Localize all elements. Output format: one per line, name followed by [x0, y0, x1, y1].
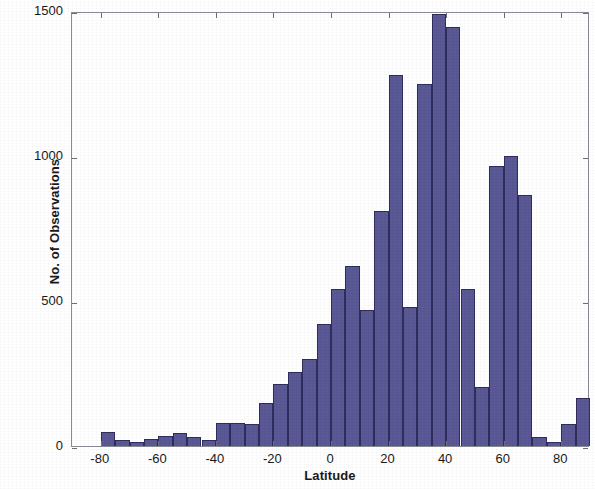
- x-tick-mark-top: [101, 13, 102, 18]
- x-tick-mark: [216, 441, 217, 446]
- histogram-bar: [158, 436, 172, 446]
- y-tick-mark-right: [583, 158, 588, 159]
- histogram-bar: [259, 403, 273, 447]
- x-tick-mark-top: [331, 13, 332, 18]
- x-tick-label: 80: [537, 451, 583, 466]
- histogram-bar: [403, 307, 417, 446]
- histogram-bar: [446, 27, 460, 446]
- histogram-bar: [389, 75, 403, 446]
- histogram-bar: [518, 195, 532, 446]
- histogram-bar: [561, 424, 575, 446]
- histogram-bar: [187, 437, 201, 446]
- y-tick-mark-right: [583, 13, 588, 14]
- histogram-bar: [245, 424, 259, 446]
- histogram-bar: [230, 423, 244, 446]
- y-tick-label: 500: [7, 293, 63, 308]
- x-tick-label: -40: [192, 451, 238, 466]
- x-tick-label: 40: [422, 451, 468, 466]
- y-tick-label: 1000: [7, 148, 63, 163]
- histogram-bar: [216, 423, 230, 446]
- histogram-bar: [115, 440, 129, 446]
- x-tick-mark: [561, 441, 562, 446]
- histogram-bar: [173, 433, 187, 446]
- x-tick-mark: [446, 441, 447, 446]
- plot-area: [71, 12, 589, 447]
- x-tick-mark-top: [158, 13, 159, 18]
- y-tick-label: 1500: [7, 3, 63, 18]
- y-tick-mark-right: [583, 303, 588, 304]
- y-tick-mark: [72, 158, 77, 159]
- y-tick-mark-right: [583, 448, 588, 449]
- histogram-bar: [202, 440, 216, 446]
- bars-container: [72, 13, 588, 446]
- histogram-bar: [288, 372, 302, 446]
- x-tick-label: -80: [77, 451, 123, 466]
- y-tick-label: 0: [7, 438, 63, 453]
- histogram-bar: [302, 359, 316, 446]
- histogram-bar: [331, 289, 345, 446]
- histogram-bar: [547, 442, 561, 446]
- x-tick-mark-top: [561, 13, 562, 18]
- histogram-bar: [345, 266, 359, 446]
- x-tick-mark-top: [273, 13, 274, 18]
- x-tick-label: -20: [249, 451, 295, 466]
- histogram-bar: [317, 324, 331, 446]
- histogram-bar: [532, 437, 546, 446]
- x-tick-mark-top: [216, 13, 217, 18]
- x-tick-mark: [158, 441, 159, 446]
- y-axis-title: No. of Observations: [47, 72, 62, 372]
- histogram-bar: [417, 84, 431, 447]
- x-tick-mark: [331, 441, 332, 446]
- histogram-bar: [576, 398, 590, 446]
- histogram-bar: [360, 310, 374, 446]
- x-tick-mark: [389, 441, 390, 446]
- x-axis-title: Latitude: [71, 468, 589, 483]
- histogram-bar: [432, 14, 446, 446]
- y-tick-mark: [72, 303, 77, 304]
- histogram-bar: [273, 384, 287, 446]
- histogram-bar: [144, 439, 158, 446]
- x-tick-mark-top: [504, 13, 505, 18]
- x-tick-label: 20: [365, 451, 411, 466]
- histogram-bar: [374, 211, 388, 446]
- x-tick-label: 60: [480, 451, 526, 466]
- histogram-bar: [475, 387, 489, 446]
- x-tick-mark: [101, 441, 102, 446]
- histogram-bar: [504, 156, 518, 446]
- x-tick-mark-top: [389, 13, 390, 18]
- x-tick-label: 0: [307, 451, 353, 466]
- histogram-bar: [101, 432, 115, 447]
- histogram-figure: No. of Observations -80-60-40-2002040608…: [0, 0, 595, 489]
- y-tick-mark: [72, 13, 77, 14]
- y-tick-mark: [72, 448, 77, 449]
- x-tick-mark: [504, 441, 505, 446]
- histogram-bar: [461, 289, 475, 446]
- x-tick-mark-top: [446, 13, 447, 18]
- histogram-bar: [489, 166, 503, 446]
- histogram-bar: [130, 442, 144, 446]
- x-tick-label: -60: [134, 451, 180, 466]
- x-tick-mark: [273, 441, 274, 446]
